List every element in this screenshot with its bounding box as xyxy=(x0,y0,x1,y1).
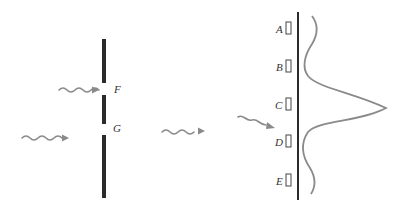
detector-box xyxy=(286,174,291,186)
detector-c: C xyxy=(275,98,291,111)
barrier-segment-top xyxy=(102,39,106,83)
slit-label-f: F xyxy=(113,83,121,95)
detector-a: A xyxy=(275,22,291,35)
wave-arrow-to-f xyxy=(59,87,99,94)
detector-box xyxy=(286,22,291,34)
barrier-segment-middle xyxy=(102,95,106,124)
detector-box xyxy=(286,60,291,72)
wave-arrow-to-screen xyxy=(238,116,275,129)
detector-box xyxy=(286,98,291,110)
wave-icon xyxy=(22,136,62,140)
barrier-segment-bottom xyxy=(102,135,106,198)
detector-d: D xyxy=(274,135,291,148)
slit-label-g: G xyxy=(113,122,121,134)
wave-arrow-middle xyxy=(162,128,205,135)
double-slit-diagram: F G A B C D E xyxy=(0,0,407,210)
detector-b: B xyxy=(276,60,291,73)
arrowhead-icon xyxy=(62,135,69,142)
wave-icon xyxy=(162,130,194,134)
detector-label-e: E xyxy=(275,175,283,187)
wave-arrow-incoming xyxy=(22,135,69,142)
slit-barrier xyxy=(102,39,106,198)
detector-label-b: B xyxy=(276,61,283,73)
arrowhead-icon xyxy=(198,128,205,135)
detector-box xyxy=(286,135,291,147)
detector-e: E xyxy=(275,174,291,187)
intensity-curve xyxy=(303,16,386,194)
wave-icon xyxy=(238,116,266,125)
detector-label-c: C xyxy=(275,99,283,111)
detector-label-a: A xyxy=(275,23,283,35)
arrowhead-icon xyxy=(266,122,275,129)
detector-label-d: D xyxy=(274,136,283,148)
